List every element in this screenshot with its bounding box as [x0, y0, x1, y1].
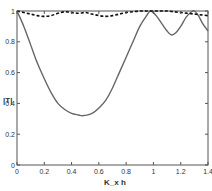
y-axis-label: |T|: [3, 96, 12, 105]
x-tick-label: 0.8: [121, 168, 131, 175]
y-tick-label: 0: [11, 162, 15, 169]
x-tick-label: 1.2: [176, 168, 186, 175]
ticks-layer: 00.20.40.60.811.21.400.20.40.60.81: [5, 8, 212, 176]
series-layer: [17, 11, 208, 116]
series-solid: [17, 11, 208, 116]
y-tick-label: 1: [11, 8, 15, 15]
y-tick-label: 0.2: [5, 131, 15, 138]
x-tick-label: 0.6: [94, 168, 104, 175]
y-tick-label: 0.6: [5, 69, 15, 76]
x-axis-label: K_x h: [104, 178, 126, 187]
transmission-chart: 00.20.40.60.811.21.400.20.40.60.81 |T| K…: [0, 0, 212, 191]
x-tick-label: 0: [15, 168, 19, 175]
series-dashed: [17, 11, 208, 16]
x-tick-label: 0.2: [39, 168, 49, 175]
x-tick-label: 1.4: [203, 168, 212, 175]
x-tick-label: 1: [151, 168, 155, 175]
y-tick-label: 0.8: [5, 38, 15, 45]
x-tick-label: 0.4: [67, 168, 77, 175]
